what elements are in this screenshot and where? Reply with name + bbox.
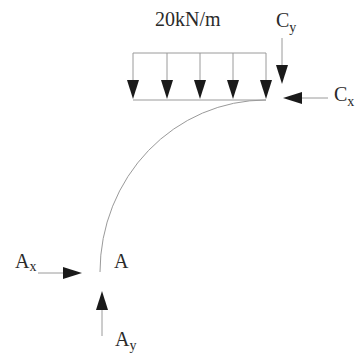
load-arrow-icon <box>227 53 239 99</box>
load-arrow-icon <box>127 53 139 99</box>
ay-label: Ay <box>115 328 136 353</box>
load-arrow-icon <box>260 53 272 99</box>
cy-label: Cy <box>276 9 296 35</box>
ax-label: Ax <box>15 250 36 274</box>
free-body-diagram: 20kN/m Cy Cx Ax A Ay <box>0 0 363 363</box>
reaction-arrow-cx-icon <box>283 92 328 104</box>
point-a-label: A <box>114 250 129 272</box>
cx-label: Cx <box>334 83 354 109</box>
reaction-arrow-cy-icon <box>276 38 288 84</box>
load-arrow-icon <box>194 53 206 99</box>
reaction-arrow-ay-icon <box>96 291 108 336</box>
load-arrow-icon <box>161 53 173 99</box>
curved-beam <box>100 100 266 272</box>
reaction-arrow-ax-icon <box>38 267 82 279</box>
load-label: 20kN/m <box>155 8 221 30</box>
distributed-load <box>127 53 272 100</box>
